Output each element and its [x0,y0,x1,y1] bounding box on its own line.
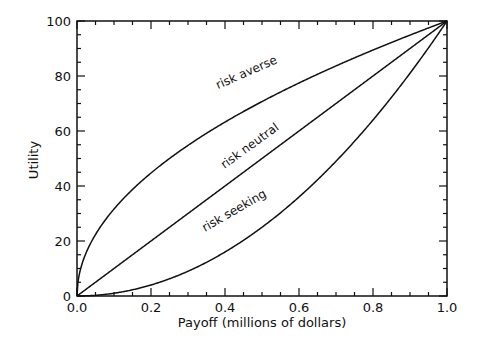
y-tick-label: 40 [54,179,71,194]
x-tick-label: 0.6 [289,300,310,315]
x-tick-label: 0.4 [215,300,236,315]
y-tick-label: 20 [54,234,71,249]
curve-labels: risk averserisk neutralrisk seeking [199,53,281,235]
risk-neutral-label: risk neutral [218,120,281,171]
risk-averse-label: risk averse [214,53,280,93]
x-axis-title: Payoff (millions of dollars) [178,315,347,330]
y-tick-label: 80 [54,69,71,84]
utility-chart: 0.00.20.40.60.81.0020406080100 risk aver… [0,0,477,349]
y-axis-title: Utility [26,141,41,180]
x-tick-label: 0.2 [141,300,162,315]
y-tick-label: 0 [63,289,71,304]
x-tick-label: 1.0 [437,300,458,315]
x-tick-label: 0.8 [363,300,384,315]
y-tick-label: 60 [54,124,71,139]
y-tick-label: 100 [46,14,71,29]
risk-seeking-label: risk seeking [199,187,268,235]
